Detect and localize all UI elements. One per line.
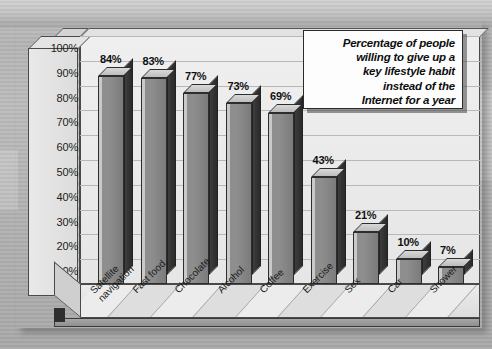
bar-front-face — [98, 76, 124, 284]
bar-value-label: 43% — [313, 154, 334, 166]
bar-front-face — [183, 93, 209, 284]
y-axis-tick-labels: 100%90%80%70%60%50%40%30%20%10%0% — [28, 48, 78, 296]
y-tick-label: 50% — [30, 166, 78, 178]
bar-value-label: 83% — [143, 55, 164, 67]
bar-value-label: 69% — [270, 90, 291, 102]
bar — [141, 78, 176, 284]
bar — [268, 113, 303, 284]
bar — [183, 93, 218, 284]
y-tick-label: 80% — [30, 92, 78, 104]
scan-top-band — [0, 0, 492, 22]
bar-side-face — [167, 60, 176, 275]
bar-front-face — [268, 113, 294, 284]
bar-value-label: 84% — [100, 53, 121, 65]
bar-value-label: 10% — [398, 236, 419, 248]
bar-value-label: 77% — [185, 70, 206, 82]
bar-front-face — [353, 232, 379, 284]
y-tick-label: 60% — [30, 141, 78, 153]
bar-side-face — [252, 85, 261, 275]
floor-corner-shadow — [54, 308, 65, 322]
y-tick-label: 70% — [30, 116, 78, 128]
y-tick-label: 100% — [30, 42, 78, 54]
y-tick-label: 40% — [30, 191, 78, 203]
bar-front-face — [226, 103, 252, 284]
chart-title-box: Percentage of peoplewilling to give up a… — [303, 30, 463, 109]
bar-chart: 100%90%80%70%60%50%40%30%20%10%0% 84%83%… — [18, 24, 480, 324]
bar — [353, 232, 388, 284]
y-tick-label: 90% — [30, 67, 78, 79]
bar-side-face — [294, 95, 303, 275]
bar-side-face — [124, 58, 133, 275]
bar — [98, 76, 133, 284]
bar-side-face — [209, 75, 218, 275]
bar-value-label: 21% — [355, 209, 376, 221]
bar-value-label: 73% — [228, 80, 249, 92]
bar-side-face — [337, 159, 346, 275]
y-tick-label: 20% — [30, 240, 78, 252]
scan-artifact — [0, 150, 18, 210]
chart-floor: SatellitenavigationFast foodChocolateAlc… — [54, 284, 480, 328]
bar-value-label: 7% — [440, 244, 456, 256]
y-tick-label: 30% — [30, 216, 78, 228]
bar-front-face — [141, 78, 167, 284]
chart-title-text: Percentage of peoplewilling to give up a… — [310, 36, 455, 107]
floor-front-edge — [54, 318, 480, 327]
bar — [226, 103, 261, 284]
